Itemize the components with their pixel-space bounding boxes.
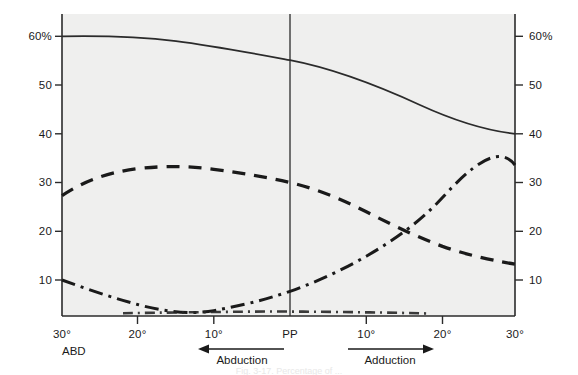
- y-axis-right-tick-label-40: 40: [529, 128, 542, 140]
- x-axis-ticks: [138, 316, 443, 324]
- series-dash-dot-curve: [62, 157, 515, 313]
- y-axis-left-tick-label-50: 50: [6, 79, 52, 91]
- figure-container: 60% 50 40 30 20 10 60% 50 40 30 20 10 30…: [0, 0, 578, 375]
- y-axis-right-ticks: [515, 36, 523, 280]
- abduction-direction-label: Abduction: [198, 354, 286, 366]
- y-axis-right-tick-label-30: 30: [529, 176, 542, 188]
- chart-canvas: [0, 0, 578, 375]
- series-baseline-dash-dot-curve: [123, 312, 428, 314]
- y-axis-right-tick-label-10: 10: [529, 274, 542, 286]
- x-axis-tick-label-abd-10: 10°: [194, 328, 234, 340]
- x-axis-tick-label-pp: PP: [270, 328, 310, 340]
- y-axis-right-tick-label-60: 60%: [529, 30, 553, 42]
- x-axis-tick-label-add-10: 10°: [346, 328, 386, 340]
- series-dashed-curve: [62, 167, 515, 265]
- adduction-direction-label: Adduction: [346, 354, 434, 366]
- y-axis-left-tick-label-40: 40: [6, 128, 52, 140]
- x-axis-tick-label-add-30: 30°: [495, 328, 535, 340]
- y-axis-left-tick-label-30: 30: [6, 176, 52, 188]
- y-axis-right-tick-label-50: 50: [529, 79, 542, 91]
- x-axis-tick-label-abd-20: 20°: [118, 328, 158, 340]
- series-solid-curve: [62, 36, 515, 134]
- y-axis-left-tick-label-10: 10: [6, 274, 52, 286]
- x-axis-tick-label-abd-30: 30°: [42, 328, 82, 340]
- x-axis-tick-label-add-20: 20°: [423, 328, 463, 340]
- y-axis-left-tick-label-60: 60%: [6, 30, 52, 42]
- y-axis-left-ticks: [55, 36, 62, 280]
- y-axis-left-tick-label-20: 20: [6, 225, 52, 237]
- y-axis-right-tick-label-20: 20: [529, 225, 542, 237]
- abd-corner-label: ABD: [62, 345, 86, 357]
- figure-caption-partial: Fig. 3-17. Percentage of ...: [0, 366, 578, 375]
